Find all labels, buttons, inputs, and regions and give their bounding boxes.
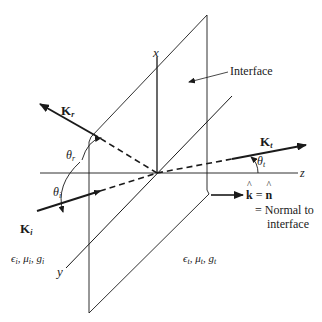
x-axis-label: x [153, 46, 159, 59]
transmitted-medium-label: ϵt, μt, gt [183, 253, 216, 266]
incident-vector-label: Ki [20, 222, 32, 237]
interface-diagram: x y z Interface Kr Ki Kt θr θi θt k = n … [0, 0, 322, 322]
theta-r-label: θr [66, 149, 75, 163]
diagram-lines [0, 0, 322, 322]
reflected-vector-label: Kr [61, 104, 74, 119]
y-axis-label: y [57, 265, 63, 278]
theta-i-arc [61, 162, 80, 212]
normal-note-line3: interface [267, 218, 309, 230]
normal-equation: k = n [246, 189, 272, 201]
normal-note-line2: = Normal to [255, 204, 314, 216]
interface-plane [89, 15, 209, 313]
incident-medium-label: ϵi, μi, gi [11, 253, 44, 266]
transmitted-vector-label: Kt [260, 135, 272, 150]
incident-vector [37, 191, 100, 211]
interface-pointer [189, 72, 228, 82]
theta-i-label: θi [53, 186, 61, 200]
z-axis-label: z [300, 167, 305, 179]
theta-r-arc [82, 138, 101, 160]
interface-label: Interface [230, 65, 273, 77]
theta-t-label: θt [257, 155, 265, 169]
